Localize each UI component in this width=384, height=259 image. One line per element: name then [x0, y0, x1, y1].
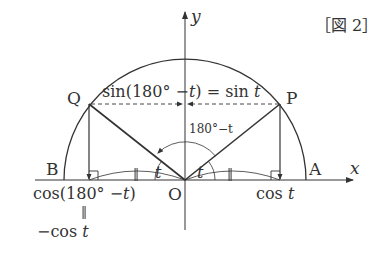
sin-mid: ) = sin	[195, 82, 248, 101]
figure-label: ［図 2］	[315, 18, 378, 34]
sin-prefix: sin(180° −	[102, 82, 189, 101]
cos-t-label: cos t	[256, 186, 294, 202]
cos180-close: )	[130, 184, 136, 203]
neg-cos-t-label: −cos t	[37, 224, 89, 240]
angle-arc-t-right	[209, 162, 215, 181]
sin-var-t2: t	[254, 82, 260, 101]
cos180-prefix: cos(180° −	[33, 184, 123, 203]
vertical-equals: ||	[81, 206, 85, 218]
point-B-label: B	[46, 161, 59, 178]
equal-tick-right: ||	[227, 168, 231, 180]
point-A-label: A	[309, 161, 321, 178]
angle-arc-180-minus-t	[158, 142, 216, 156]
angle-label-t-left: t	[155, 165, 161, 181]
point-O-label: O	[168, 186, 182, 203]
cos-var-t: t	[288, 184, 294, 203]
equal-tick-left: ||	[133, 168, 137, 180]
y-axis-label: y	[191, 8, 201, 25]
cos-text: cos	[256, 184, 283, 203]
neg-cos-var-t: t	[82, 222, 88, 241]
angle-label-t-right: t	[197, 165, 203, 181]
neg-cos-text: −cos	[37, 222, 77, 241]
angle-label-180-minus-t: 180°−t	[189, 123, 233, 135]
x-axis-label: x	[350, 160, 360, 177]
cos-180-minus-t-label: cos(180° −t)	[33, 186, 136, 202]
sin-relation-label: sin(180° −t) = sin t	[102, 84, 260, 100]
point-Q-label: Q	[67, 90, 81, 107]
point-P-label: P	[286, 90, 297, 107]
